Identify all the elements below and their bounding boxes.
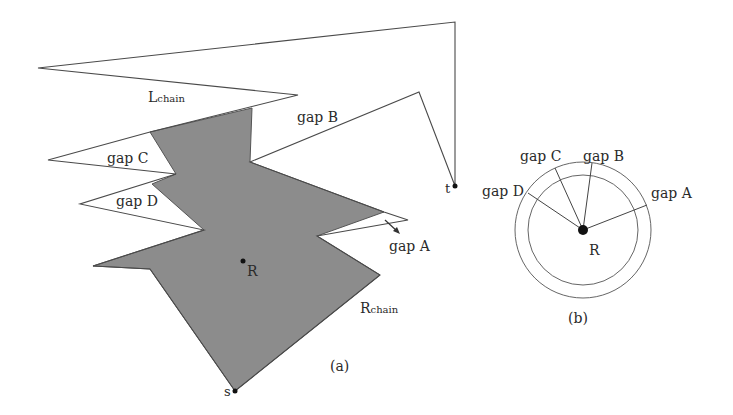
figure-canvas: Lchain gap B gap C gap D gap A R Rchain …: [0, 0, 733, 415]
gap-b-label: gap B: [297, 109, 338, 125]
point-s-label: s: [224, 384, 231, 399]
point-r-dot: [241, 259, 246, 264]
b-gap-b-label: gap B: [583, 148, 624, 164]
point-r-label: R: [247, 263, 258, 279]
figure-a-caption: (a): [330, 358, 349, 374]
b-gap-d-label: gap D: [482, 183, 524, 199]
figure-b-caption: (b): [568, 310, 588, 326]
point-t-dot: [453, 184, 458, 189]
gap-a-label: gap A: [389, 238, 431, 254]
l-chain-label: Lchain: [148, 89, 185, 105]
b-center-label: R: [589, 242, 600, 258]
r-chain-label: Rchain: [360, 300, 399, 316]
b-gap-a-label: gap A: [651, 185, 693, 201]
point-t-label: t: [445, 181, 451, 196]
point-s-dot: [233, 389, 238, 394]
gap-c-label: gap C: [107, 150, 148, 166]
gap-d-label: gap D: [116, 193, 158, 209]
ray-gap-b: [583, 163, 592, 230]
b-gap-c-label: gap C: [520, 148, 561, 164]
center-r-dot: [578, 225, 588, 235]
